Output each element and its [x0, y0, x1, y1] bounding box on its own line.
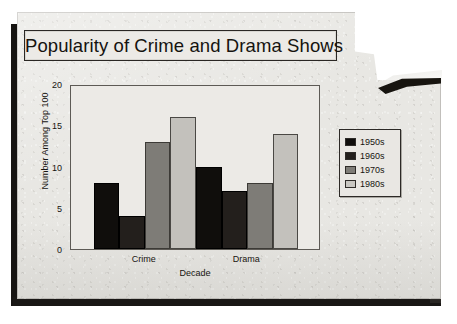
x-axis-category-labels: CrimeDrama [70, 254, 320, 268]
bar-crime-1960s [119, 216, 145, 249]
chart-legend: 1950s1960s1970s1980s [339, 129, 401, 197]
legend-item-1980s: 1980s [345, 177, 395, 191]
legend-item-1970s: 1970s [345, 163, 395, 177]
bar-crime-1980s [170, 117, 196, 249]
plot-area [70, 85, 320, 250]
legend-label: 1960s [360, 151, 385, 161]
bar-crime-1950s [94, 183, 120, 249]
legend-swatch-icon-1960s [345, 152, 356, 160]
bar-chart: Number Among Top 100 05101520 CrimeDrama… [24, 78, 334, 283]
legend-label: 1980s [360, 179, 385, 189]
chart-title-plate: Popularity of Crime and Drama Shows [24, 30, 337, 61]
bar-drama-1950s [196, 167, 222, 250]
scanned-page-root: Popularity of Crime and Drama Shows Numb… [0, 0, 457, 324]
bar-drama-1960s [222, 191, 248, 249]
legend-swatch-icon-1980s [345, 180, 356, 188]
legend-item-1960s: 1960s [345, 149, 395, 163]
x-category-label-drama: Drama [233, 254, 260, 264]
y-tick-label: 15 [42, 121, 62, 131]
legend-swatch-icon-1950s [345, 138, 356, 146]
y-tick-label: 0 [42, 245, 62, 255]
legend-label: 1970s [360, 165, 385, 175]
page-title: Popularity of Crime and Drama Shows [25, 31, 336, 60]
legend-item-1950s: 1950s [345, 135, 395, 149]
bar-crime-1970s [145, 142, 171, 249]
x-axis-title: Decade [70, 268, 320, 278]
bars-container [71, 86, 319, 249]
x-category-label-crime: Crime [132, 254, 156, 264]
y-axis-ticks: 05101520 [42, 78, 66, 250]
y-tick-label: 10 [42, 163, 62, 173]
y-tick-label: 20 [42, 80, 62, 90]
legend-swatch-icon-1970s [345, 166, 356, 174]
bar-drama-1980s [273, 134, 299, 250]
legend-label: 1950s [360, 137, 385, 147]
bar-drama-1970s [247, 183, 273, 249]
y-tick-label: 5 [42, 204, 62, 214]
